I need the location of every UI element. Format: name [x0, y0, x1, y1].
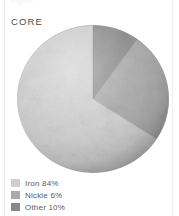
chart-legend: Iron 84% Nickle 6% Other 10% [11, 177, 131, 213]
legend-item-other: Other 10% [11, 201, 131, 213]
pie-chart-svg [17, 25, 169, 173]
legend-label-iron: Iron 84% [25, 179, 59, 188]
page-margin-rule-right [172, 0, 173, 216]
page-margin-rule-left [4, 0, 5, 216]
legend-label-other: Other 10% [25, 203, 65, 212]
legend-swatch-nickle [11, 191, 20, 199]
legend-label-nickle: Nickle 6% [25, 191, 62, 200]
legend-item-nickle: Nickle 6% [11, 189, 131, 201]
legend-swatch-iron [11, 179, 20, 187]
clipped-caption-text: Figure [11, 0, 33, 4]
legend-item-iron: Iron 84% [11, 177, 131, 189]
figure-page: Figure CORE [0, 0, 179, 216]
pie-chart [17, 25, 169, 173]
legend-swatch-other [11, 203, 20, 211]
